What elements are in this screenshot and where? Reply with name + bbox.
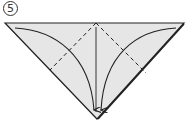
origami-diagram [0,0,189,126]
paper-triangle [5,23,184,119]
